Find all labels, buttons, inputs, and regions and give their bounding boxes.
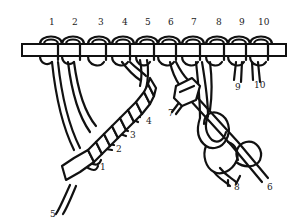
cord-label: 5 [145,17,151,27]
cord-label: 6 [168,17,174,27]
cord-label: 8 [216,17,222,27]
knot-chain [190,96,268,186]
cord-end-label: 2 [116,144,122,154]
cord-end-label: 3 [130,130,136,140]
cord-label: 1 [49,17,55,27]
top-cord-labels: 1 2 3 4 5 6 7 8 9 10 [49,17,270,27]
spiral-sinnet [62,78,156,180]
cord-label: 10 [258,17,270,27]
cord-label: 7 [191,17,197,27]
hanging-cords [52,60,260,214]
cord-end-label: 9 [235,82,241,92]
cord-label: 4 [122,17,128,27]
cord-label: 3 [98,17,104,27]
macrame-knot-diagram: 1 2 3 4 5 6 7 8 9 10 1 2 3 4 5 7 9 10 8 … [0,0,295,224]
cord-end-label: 6 [267,182,273,192]
cord-end-label: 4 [146,116,152,126]
cord-end-label: 1 [100,162,106,172]
cord-label: 2 [72,17,78,27]
cord-end-label: 10 [254,80,266,90]
cord-label: 9 [239,17,245,27]
cord-end-label: 5 [50,209,56,219]
cord-end-label: 8 [234,182,240,192]
cord-end-label: 7 [168,108,174,118]
